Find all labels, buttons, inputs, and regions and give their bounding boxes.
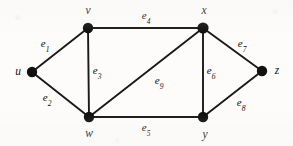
edge-label-e5: e5 (142, 122, 151, 136)
vertex-label-v: v (85, 5, 90, 17)
vertex-label-w: w (85, 128, 93, 140)
edge-label-subscript: 5 (147, 129, 151, 138)
graph-vertex-u (27, 67, 37, 77)
edges-layer (32, 28, 262, 117)
edge-label-subscript: 9 (160, 82, 164, 91)
graph-edge-e2 (32, 72, 89, 117)
edge-label-e8: e8 (237, 97, 246, 111)
graph-diagram: e1e2e3e4e5e6e7e8e9uvwxyz (0, 0, 293, 146)
graph-edge-e9 (89, 28, 203, 117)
graph-edge-e3 (88, 28, 89, 117)
vertex-label-x: x (201, 5, 206, 17)
edge-label-e4: e4 (142, 10, 151, 24)
edge-label-subscript: 1 (46, 45, 50, 54)
graph-vertex-v (83, 23, 93, 33)
edge-label-e3: e3 (93, 65, 102, 79)
edge-label-subscript: 2 (48, 99, 52, 108)
edge-label-subscript: 3 (98, 72, 102, 81)
vertex-label-z: z (275, 65, 279, 77)
edge-label-subscript: 8 (242, 104, 246, 113)
vertex-label-u: u (15, 66, 21, 78)
edge-label-e2: e2 (43, 92, 52, 106)
graph-vertex-z (257, 66, 267, 76)
edge-label-e9: e9 (155, 75, 164, 89)
edge-label-e6: e6 (207, 65, 216, 79)
graph-vertex-y (198, 112, 208, 122)
graph-vertex-x (197, 22, 208, 33)
vertex-label-y: y (202, 129, 207, 141)
edge-label-e1: e1 (41, 38, 50, 52)
edge-label-subscript: 7 (243, 45, 247, 54)
edge-label-e7: e7 (238, 38, 247, 52)
edge-label-subscript: 4 (147, 17, 151, 26)
edge-label-subscript: 6 (212, 72, 216, 81)
graph-vertex-w (84, 112, 94, 122)
